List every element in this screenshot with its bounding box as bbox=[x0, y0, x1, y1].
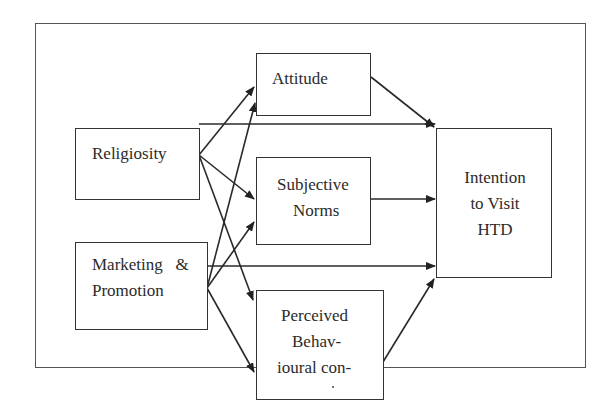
arrow-marketing-subjective-norms bbox=[207, 222, 254, 288]
node-perceived-line3: ioural con- bbox=[277, 355, 351, 381]
node-intention-line1: Intention bbox=[437, 165, 553, 191]
arrow-religiosity-attitude bbox=[199, 87, 254, 155]
node-perceived-behavioural-control: Perceived Behav- ioural con- bbox=[256, 290, 384, 400]
arrow-perceived-intention bbox=[383, 279, 434, 362]
node-intention-line3: HTD bbox=[437, 217, 553, 243]
node-subjective-norms-line1: Subjective bbox=[277, 172, 349, 198]
node-marketing-label-line1: Marketing & bbox=[92, 252, 189, 278]
stray-dot bbox=[332, 386, 334, 388]
node-religiosity: Religiosity bbox=[75, 128, 200, 200]
node-subjective-norms-line2: Norms bbox=[293, 198, 339, 224]
arrow-attitude-intention bbox=[371, 77, 434, 127]
node-perceived-line2: Behav- bbox=[292, 329, 341, 355]
node-intention-to-visit-htd: Intention to Visit HTD bbox=[436, 128, 552, 278]
node-religiosity-label: Religiosity bbox=[92, 141, 167, 167]
node-subjective-norms: Subjective Norms bbox=[256, 157, 371, 245]
node-attitude-label: Attitude bbox=[272, 66, 328, 92]
node-perceived-line1: Perceived bbox=[281, 303, 348, 329]
arrow-marketing-perceived bbox=[207, 288, 254, 372]
node-marketing-label-line2: Promotion bbox=[92, 278, 164, 304]
node-intention-line2: to Visit bbox=[437, 191, 553, 217]
node-attitude: Attitude bbox=[256, 53, 371, 116]
node-marketing-promotion: Marketing & Promotion bbox=[75, 242, 208, 330]
